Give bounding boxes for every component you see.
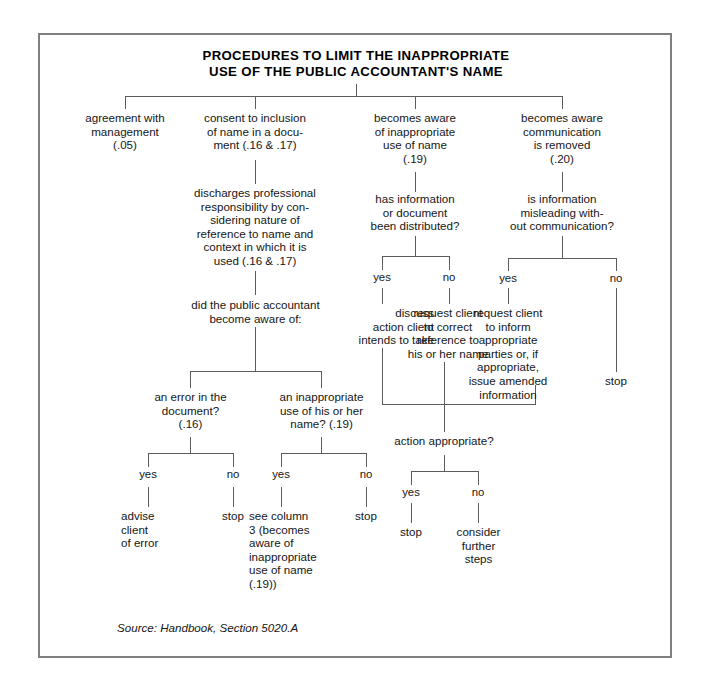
edge-c2a-yes-down (148, 487, 149, 507)
node-request-client-to-inform-parties: request client to inform appropriate par… (458, 306, 558, 401)
edge-root-bus (125, 96, 563, 97)
branch-label-c2b-yes: yes (256, 468, 306, 481)
edge-c3n2-bus (382, 256, 449, 257)
edge-c2n3-bus (190, 371, 321, 372)
branch-label-c4-no: no (591, 272, 641, 285)
edge-root-to-col2 (255, 96, 256, 109)
edge-c2b-yes (281, 453, 282, 467)
branch-label-c2b-no: no (341, 468, 391, 481)
branch-label-action-no: no (453, 486, 503, 499)
edge-c2a-no (233, 453, 234, 467)
node-becomes-aware-communication-removed: becomes aware communication is removed (… (500, 111, 624, 165)
node-c2b-stop: stop (341, 509, 391, 523)
edge-c2b-yes-down (281, 487, 282, 507)
edge-c2b-bus (281, 453, 366, 454)
edge-c3yes-to-merge (382, 348, 383, 404)
node-action-yes-stop: stop (386, 525, 436, 539)
edge-merge-bus (382, 404, 536, 405)
edge-c4n2-stem (562, 236, 563, 258)
branch-label-c2a-yes: yes (123, 468, 173, 481)
edge-c4n2-bus (508, 258, 616, 259)
edge-c4-yes-down (508, 288, 509, 304)
node-an-error-in-the-document: an error in the document? (.16) (136, 390, 245, 431)
node-becomes-aware-inappropriate-use: becomes aware of inappropriate use of na… (352, 111, 478, 165)
node-action-appropriate: action appropriate? (384, 434, 504, 448)
edge-c3n2-no (449, 256, 450, 270)
page-title: PROCEDURES TO LIMIT THE INAPPROPRIATE US… (176, 48, 536, 80)
edge-c2n3-to-c2b (321, 371, 322, 388)
node-c4-no-stop: stop (591, 374, 641, 388)
edge-c2a-bus (148, 453, 233, 454)
edge-action-yes-down (411, 503, 412, 523)
node-is-information-misleading: is information misleading with- out comm… (494, 192, 630, 233)
node-an-inappropriate-use-of-name: an inappropriate use of his or her name?… (263, 390, 380, 431)
edge-root-to-col4 (562, 96, 563, 109)
edge-c3no-to-merge (444, 362, 445, 404)
node-discharges-professional-responsibility: discharges professional responsibility b… (180, 186, 330, 268)
edge-c4n2-no (616, 258, 617, 271)
edge-c2n3-to-c2a (190, 371, 191, 388)
branch-label-c2a-no: no (208, 468, 258, 481)
branch-label-c3-yes: yes (357, 271, 407, 284)
edge-c2n3-stem (255, 327, 256, 371)
edge-action-no (478, 471, 479, 485)
edge-root-to-col3 (415, 96, 416, 109)
node-advise-client-of-error: advise client of error (121, 509, 177, 550)
node-has-information-been-distributed: has information or document been distrib… (347, 192, 483, 233)
edge-c3-no-down (449, 288, 450, 304)
edge-c2a-stem (190, 437, 191, 453)
edge-c3n1-c3n2 (415, 172, 416, 192)
edge-c2n1-c2n2 (255, 160, 256, 184)
branch-label-c4-yes: yes (483, 272, 533, 285)
node-consider-further-steps: consider further steps (448, 525, 509, 566)
branch-label-c3-no: no (424, 271, 474, 284)
edge-c3n2-stem (415, 236, 416, 256)
edge-c4n2-yes (508, 258, 509, 271)
edge-c4-no-down (616, 288, 617, 372)
edge-c4n1-c4n2 (562, 172, 563, 192)
edge-c2b-stem (321, 437, 322, 453)
edge-c3-yes-down (382, 288, 383, 304)
edge-c2b-no-down (366, 487, 367, 507)
edge-action-bus (411, 471, 478, 472)
edge-action-stem (444, 455, 445, 471)
edge-c2b-no (366, 453, 367, 467)
node-agreement-with-management: agreement with management (.05) (65, 111, 185, 152)
source-note: Source: Handbook, Section 5020.A (117, 621, 298, 634)
edge-c2n2-c2n3 (255, 271, 256, 295)
edge-merge-to-action (444, 404, 445, 432)
edge-action-no-down (478, 503, 479, 523)
connector-layer (0, 0, 711, 700)
edge-root-to-col1 (125, 96, 126, 109)
node-did-public-accountant-become-aware: did the public accountant become aware o… (168, 298, 343, 325)
edge-action-yes (411, 471, 412, 485)
node-see-column-3: see column 3 (becomes aware of inappropr… (249, 509, 321, 591)
node-consent-to-inclusion: consent to inclusion of name in a docu- … (185, 111, 325, 152)
edge-c2a-no-down (233, 487, 234, 507)
edge-root-stem (356, 84, 357, 96)
edge-c2a-yes (148, 453, 149, 467)
page-root: PROCEDURES TO LIMIT THE INAPPROPRIATE US… (0, 0, 711, 700)
edge-c3n2-yes (382, 256, 383, 270)
branch-label-action-yes: yes (386, 486, 436, 499)
